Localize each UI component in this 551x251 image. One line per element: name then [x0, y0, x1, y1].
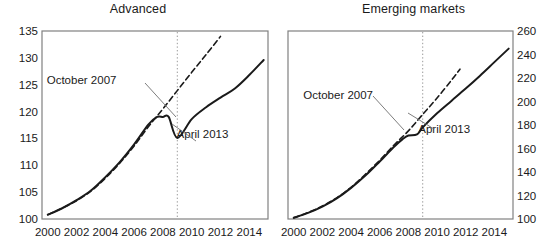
october-2007-label: October 2007	[47, 74, 117, 86]
x-tick-label: 2000	[281, 226, 307, 238]
y-tick-label: 135	[19, 25, 38, 37]
plot-area-advanced: 1001051101151201251301352000200220042006…	[0, 0, 276, 251]
y-tick-label: 180	[517, 119, 536, 131]
plot-frame	[288, 31, 513, 219]
y-tick-label: 125	[19, 79, 38, 91]
x-tick-label: 2010	[424, 226, 450, 238]
plot-frame	[42, 31, 268, 219]
x-tick-label: 2004	[93, 226, 119, 238]
october-2007-label-leader-line	[373, 96, 404, 130]
y-tick-label: 120	[517, 190, 536, 202]
chart-panel-advanced: Advanced 1001051101151201251301352000200…	[0, 0, 276, 251]
y-tick-label: 220	[517, 72, 536, 84]
october-2007-label: October 2007	[303, 89, 373, 101]
x-tick-label: 2012	[453, 226, 479, 238]
figure-root: Advanced 1001051101151201251301352000200…	[0, 0, 551, 251]
x-tick-label: 2006	[367, 226, 393, 238]
x-tick-label: 2014	[482, 226, 508, 238]
x-tick-label: 2008	[150, 226, 176, 238]
x-tick-label: 2002	[64, 226, 90, 238]
y-tick-label: 160	[517, 143, 536, 155]
y-tick-label: 105	[19, 186, 38, 198]
y-tick-label: 115	[20, 132, 38, 144]
y-tick-label: 260	[517, 25, 536, 37]
series-line-april-2013	[294, 49, 509, 218]
april-2013-label: April 2013	[418, 123, 470, 135]
x-tick-label: 2006	[121, 226, 147, 238]
y-tick-label: 130	[19, 52, 38, 64]
april-2013-label: April 2013	[177, 128, 229, 140]
y-tick-label: 100	[517, 213, 536, 225]
y-tick-label: 110	[20, 159, 38, 171]
x-tick-label: 2004	[338, 226, 364, 238]
y-tick-label: 140	[517, 166, 536, 178]
y-tick-label: 120	[19, 106, 38, 118]
plot-area-emerging-markets: 1001201401601802002202402602000200220042…	[276, 0, 551, 251]
x-tick-label: 2010	[179, 226, 205, 238]
x-tick-label: 2002	[310, 226, 336, 238]
x-tick-label: 2014	[236, 226, 262, 238]
y-tick-label: 200	[517, 96, 536, 108]
series-line-october-2007	[48, 36, 221, 214]
x-tick-label: 2000	[35, 226, 61, 238]
x-tick-label: 2008	[396, 226, 422, 238]
chart-panel-emerging-markets: Emerging markets 10012014016018020022024…	[276, 0, 551, 251]
x-tick-label: 2012	[208, 226, 234, 238]
y-tick-label: 240	[517, 49, 536, 61]
y-tick-label: 100	[19, 213, 38, 225]
